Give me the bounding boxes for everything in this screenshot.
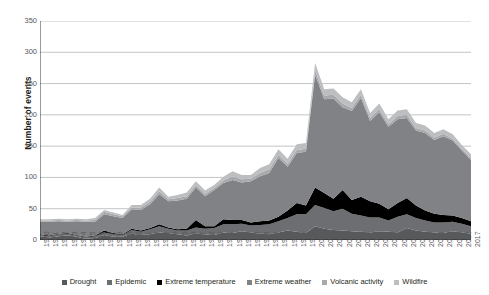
x-tick-label: 1978 (116, 231, 123, 247)
legend-item[interactable]: Extreme temperature (157, 278, 235, 286)
x-tick-label: 1984 (171, 231, 178, 247)
plot-area (40, 21, 471, 240)
y-tick-label: 50 (7, 205, 37, 213)
legend-swatch-icon (394, 280, 399, 285)
x-tick-label: 2011 (419, 232, 426, 247)
x-tick-label: 1987 (199, 231, 206, 247)
legend-label: Wildfire (402, 278, 427, 286)
plot-svg (40, 21, 471, 240)
x-tick-label: 1998 (300, 231, 307, 247)
x-tick-label: 2016 (465, 231, 472, 247)
x-tick-label: 1976 (98, 231, 105, 247)
x-tick-label: 1988 (208, 231, 215, 247)
x-tick-label: 2012 (428, 231, 435, 247)
x-tick-label: 1982 (153, 231, 160, 247)
y-tick-label: 100 (7, 173, 37, 181)
x-tick-label: 1990 (226, 231, 233, 247)
legend-item[interactable]: Volcanic activity (322, 278, 383, 286)
x-axis-tick-labels: 1970197119721973197419751976197719781979… (40, 243, 471, 273)
x-tick-label: 2002 (336, 231, 343, 247)
x-tick-label: 2010 (410, 231, 417, 247)
x-tick-label: 1981 (144, 231, 151, 247)
y-tick-label: 250 (7, 80, 37, 88)
x-tick-label: 1975 (89, 231, 96, 247)
legend-item[interactable]: Extreme weather (247, 278, 312, 286)
legend-item[interactable]: Epidemic (107, 278, 146, 286)
x-tick-label: 1986 (190, 231, 197, 247)
x-tick-label: 1996 (281, 231, 288, 247)
x-tick-label: 1980 (135, 231, 142, 247)
x-tick-label: 2005 (364, 231, 371, 247)
x-tick-label: 1972 (61, 231, 68, 247)
legend-swatch-icon (247, 280, 252, 285)
x-tick-label: 2000 (318, 231, 325, 247)
x-tick-label: 1991 (236, 231, 243, 247)
x-tick-label: 1994 (263, 231, 270, 247)
legend-swatch-icon (107, 280, 112, 285)
x-tick-label: 2001 (327, 231, 334, 247)
legend-item[interactable]: Drought (62, 278, 97, 286)
x-tick-label: 1995 (272, 231, 279, 247)
legend-swatch-icon (62, 280, 67, 285)
x-tick-label: 1989 (217, 231, 224, 247)
y-tick-label: 0 (7, 236, 37, 244)
legend-swatch-icon (322, 280, 327, 285)
x-tick-label: 1973 (71, 231, 78, 247)
legend-swatch-icon (157, 280, 162, 285)
y-tick-label: 300 (7, 48, 37, 56)
x-tick-label: 1974 (80, 231, 87, 247)
legend-label: Extreme temperature (165, 278, 235, 286)
x-tick-label: 2015 (456, 231, 463, 247)
x-tick-label: 1997 (291, 231, 298, 247)
x-tick-label: 2004 (355, 231, 362, 247)
y-axis-tick-labels: 050100150200250300350 (0, 0, 37, 262)
x-tick-label: 1970 (43, 231, 50, 247)
legend-label: Drought (70, 278, 97, 286)
x-tick-label: 1992 (245, 231, 252, 247)
stacked-area-chart: Number of events 050100150200250300350 1… (0, 0, 489, 295)
y-tick-label: 200 (7, 111, 37, 119)
x-tick-label: 1993 (254, 231, 261, 247)
chart-legend: DroughtEpidemicExtreme temperatureExtrem… (0, 275, 489, 289)
x-tick-label: 2006 (373, 231, 380, 247)
x-tick-label: 2003 (346, 231, 353, 247)
x-tick-label: 2013 (437, 231, 444, 247)
x-tick-label: 1977 (107, 231, 114, 247)
legend-label: Extreme weather (255, 278, 312, 286)
x-tick-label: 2008 (391, 231, 398, 247)
x-tick-label: 2017 (474, 231, 481, 247)
legend-label: Volcanic activity (330, 278, 383, 286)
y-tick-label: 150 (7, 142, 37, 150)
x-tick-label: 1985 (181, 231, 188, 247)
legend-label: Epidemic (115, 278, 146, 286)
y-tick-label: 350 (7, 17, 37, 25)
legend-item[interactable]: Wildfire (394, 278, 427, 286)
x-tick-label: 2009 (401, 231, 408, 247)
x-tick-label: 1983 (162, 231, 169, 247)
x-tick-label: 1971 (52, 231, 59, 247)
x-tick-label: 1979 (126, 231, 133, 247)
x-tick-label: 1999 (309, 231, 316, 247)
x-tick-label: 2014 (446, 231, 453, 247)
x-tick-label: 2007 (382, 231, 389, 247)
